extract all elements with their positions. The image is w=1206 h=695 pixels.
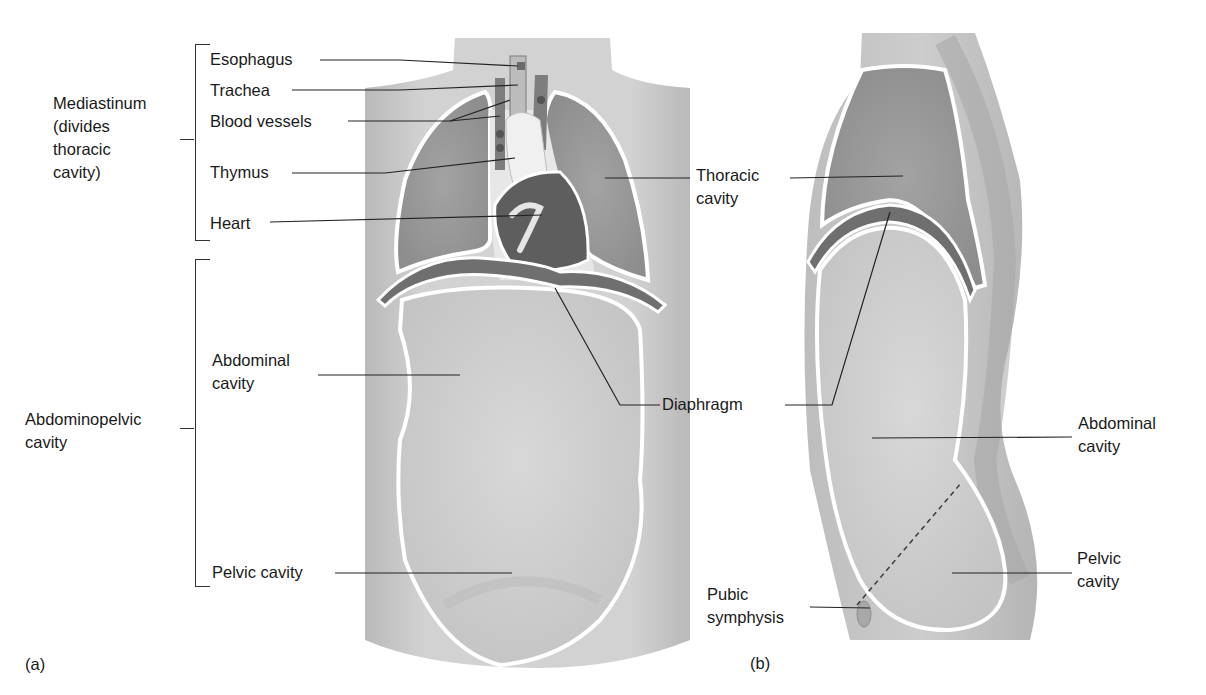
diagram-artwork — [0, 0, 1206, 695]
body-cavities-diagram: Mediastinum (divides thoracic cavity) Ab… — [0, 0, 1206, 695]
caption-panel-a: (a) — [25, 653, 45, 676]
abdominopelvic-bracket — [195, 259, 210, 587]
label-pelvic-cavity-b: Pelvic cavity — [1077, 547, 1121, 593]
label-pelvic-cavity-a: Pelvic cavity — [212, 561, 303, 584]
mediastinum-bracket-tick — [180, 139, 194, 140]
abdominopelvic-bracket-tick — [180, 428, 194, 429]
caption-panel-b: (b) — [750, 652, 770, 675]
label-abdominopelvic-cavity: Abdominopelvic cavity — [25, 408, 141, 454]
label-abdominal-cavity-a: Abdominal cavity — [212, 349, 290, 395]
pubic-symphysis-shape — [857, 601, 871, 627]
abdominopelvic-cavity-anterior — [398, 288, 642, 665]
label-abdominal-cavity-b: Abdominal cavity — [1078, 412, 1156, 458]
label-pubic-symphysis: Pubic symphysis — [707, 583, 784, 629]
label-esophagus: Esophagus — [210, 48, 293, 71]
label-heart: Heart — [210, 212, 250, 235]
label-thymus: Thymus — [210, 161, 269, 184]
label-thoracic-cavity: Thoracic cavity — [696, 164, 759, 210]
torso-lateral — [804, 33, 1037, 640]
label-diaphragm: Diaphragm — [662, 393, 743, 416]
label-trachea: Trachea — [210, 79, 270, 102]
mediastinum-bracket — [195, 44, 210, 241]
label-blood-vessels: Blood vessels — [210, 110, 312, 133]
label-mediastinum: Mediastinum (divides thoracic cavity) — [53, 92, 147, 184]
